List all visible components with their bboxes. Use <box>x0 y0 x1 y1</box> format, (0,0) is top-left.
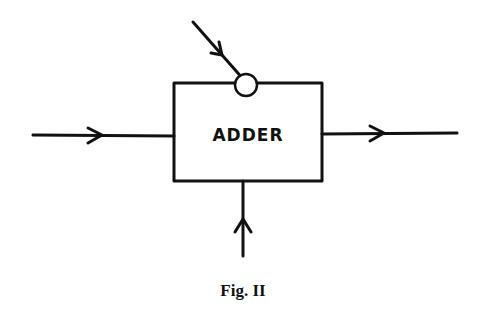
right-output-arrow <box>322 126 457 141</box>
left-input-arrow <box>33 128 174 143</box>
bottom-input-arrow <box>235 181 251 256</box>
summing-junction-icon <box>235 74 257 96</box>
adder-diagram: ADDER Fig. II <box>0 0 482 312</box>
block-label: ADDER <box>212 125 283 145</box>
figure-caption: Fig. II <box>220 281 266 300</box>
top-input-arrow <box>193 22 244 80</box>
